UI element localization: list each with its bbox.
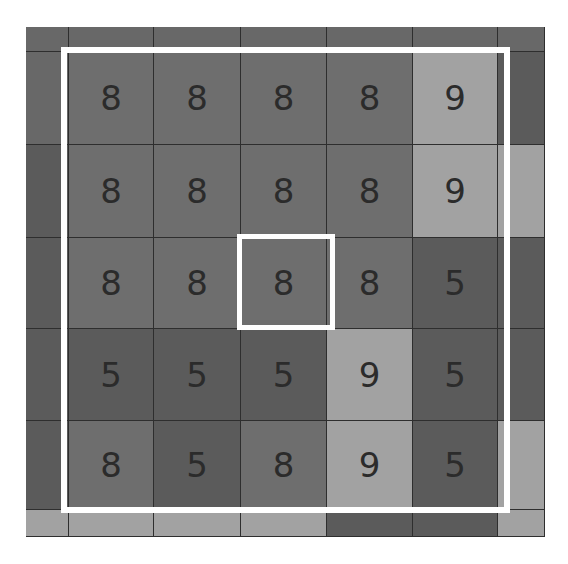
grid-cell[interactable] [241, 510, 327, 537]
grid-cell[interactable]: 8 [69, 421, 154, 510]
grid-cell[interactable] [498, 329, 545, 421]
grid-cell[interactable]: 8 [154, 145, 241, 238]
grid-cell[interactable]: 8 [241, 145, 327, 238]
grid-cell[interactable]: 5 [413, 329, 498, 421]
grid-cell[interactable]: 9 [327, 421, 413, 510]
grid-cell[interactable]: 8 [154, 238, 241, 329]
grid-cell[interactable]: 8 [327, 145, 413, 238]
grid-cell[interactable]: 8 [327, 52, 413, 145]
grid-cell[interactable] [498, 52, 545, 145]
grid-cell[interactable]: 8 [241, 52, 327, 145]
grid-cell[interactable] [498, 238, 545, 329]
grid-cell[interactable]: 8 [327, 238, 413, 329]
grid-cell[interactable] [498, 27, 545, 52]
grid-cell[interactable] [154, 510, 241, 537]
grid-cell[interactable] [413, 27, 498, 52]
grid-cell[interactable]: 9 [413, 52, 498, 145]
grid-cell[interactable]: 8 [69, 238, 154, 329]
grid-cell[interactable] [26, 145, 69, 238]
grid-cell[interactable]: 8 [241, 238, 327, 329]
grid-cell[interactable] [498, 510, 545, 537]
grid-cell[interactable] [26, 27, 69, 52]
grid-cell[interactable]: 8 [69, 52, 154, 145]
grid-cell[interactable]: 9 [327, 329, 413, 421]
grid-cell[interactable]: 5 [69, 329, 154, 421]
grid-cell[interactable]: 8 [154, 52, 241, 145]
grid-cell[interactable] [413, 510, 498, 537]
grid-cell[interactable]: 5 [154, 329, 241, 421]
grid-cell[interactable] [327, 510, 413, 537]
grid-cell[interactable]: 5 [154, 421, 241, 510]
grid-cell[interactable] [327, 27, 413, 52]
grid-cell[interactable]: 9 [413, 145, 498, 238]
grid-cell[interactable] [498, 145, 545, 238]
grid-cell[interactable] [26, 238, 69, 329]
grid-cell[interactable] [69, 510, 154, 537]
grid-cell[interactable] [26, 510, 69, 537]
game-board: 8888988889888855559585895 [26, 27, 545, 537]
grid-cell[interactable]: 5 [413, 238, 498, 329]
grid-cell[interactable]: 8 [69, 145, 154, 238]
grid-cell[interactable] [154, 27, 241, 52]
grid-cell[interactable] [26, 329, 69, 421]
grid-cell[interactable] [498, 421, 545, 510]
grid-cell[interactable] [26, 421, 69, 510]
grid-cell[interactable] [26, 52, 69, 145]
grid-cell[interactable]: 8 [241, 421, 327, 510]
grid-cell[interactable]: 5 [413, 421, 498, 510]
grid-cell[interactable] [69, 27, 154, 52]
grid-cell[interactable]: 5 [241, 329, 327, 421]
grid-cell[interactable] [241, 27, 327, 52]
